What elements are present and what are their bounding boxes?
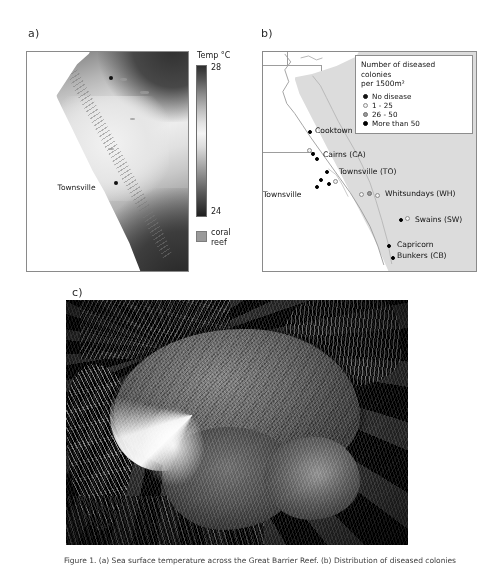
site-marker-wh-low bbox=[359, 192, 364, 197]
map-label-townsville: Townsville bbox=[58, 183, 96, 192]
legend-marker-no-disease-icon bbox=[363, 94, 368, 99]
legend-title-line2: per 1500m² bbox=[361, 79, 467, 89]
sector-label-wh: Whitsundays (WH) bbox=[385, 189, 455, 198]
legend-marker-26-50-icon bbox=[363, 112, 368, 117]
legend-row-26-50: 26 - 50 bbox=[361, 110, 467, 119]
coral-scene bbox=[66, 300, 408, 545]
site-marker-ca bbox=[311, 152, 315, 156]
legend-marker-1-25-icon bbox=[363, 103, 368, 108]
site-marker-ca bbox=[315, 157, 319, 161]
panel-c-label: c) bbox=[72, 286, 83, 299]
figure-caption: Figure 1. (a) Sea surface temperature ac… bbox=[60, 556, 460, 565]
site-marker-wh-low bbox=[375, 193, 380, 198]
site-marker-cb bbox=[387, 244, 391, 248]
panel-b-disease-map: Townsville Cooktown / Lizard Island (CL)… bbox=[262, 51, 477, 272]
panel-a-label: a) bbox=[28, 27, 39, 40]
sst-field: Townsville bbox=[27, 52, 188, 271]
legend-label-more-than-50: More than 50 bbox=[372, 119, 420, 128]
colorbar-title: Temp °C bbox=[197, 51, 230, 60]
coral-reef-swatch bbox=[196, 231, 207, 242]
coral-reef-swatch-label-line2: reef bbox=[211, 238, 231, 248]
panel-a-sst-map: Townsville bbox=[26, 51, 189, 272]
site-marker-to-low bbox=[333, 179, 338, 184]
figure-root: a) Townsville Temp °C 28 24 coral bbox=[0, 0, 497, 565]
legend-label-1-25: 1 - 25 bbox=[372, 101, 393, 110]
boundary-line bbox=[321, 65, 322, 71]
legend-label-26-50: 26 - 50 bbox=[372, 110, 397, 119]
site-marker-sw bbox=[399, 218, 403, 222]
panel-b-label: b) bbox=[261, 27, 273, 40]
boundary-line bbox=[263, 65, 321, 66]
site-marker-to bbox=[327, 182, 331, 186]
legend-row-more-than-50: More than 50 bbox=[361, 119, 467, 128]
legend-row-1-25: 1 - 25 bbox=[361, 101, 467, 110]
temperature-colorbar-group: Temp °C 28 24 coral reef bbox=[193, 51, 249, 266]
sector-label-sw: Swains (SW) bbox=[415, 215, 462, 224]
map-label-townsville: Townsville bbox=[263, 190, 301, 199]
site-marker-ca-low bbox=[307, 148, 312, 153]
boundary-line bbox=[287, 52, 288, 66]
coral-reef-swatch-label: coral reef bbox=[211, 228, 231, 247]
reef-patch bbox=[130, 118, 135, 120]
site-marker-to bbox=[319, 178, 323, 182]
colorbar-tick-max: 28 bbox=[211, 63, 221, 72]
site-marker-sw-low bbox=[405, 216, 410, 221]
legend-marker-more-than-50-icon bbox=[363, 121, 368, 126]
coral-reef-swatch-label-line1: coral bbox=[211, 228, 231, 238]
city-marker-townsville bbox=[315, 185, 319, 189]
cape-york-landmass bbox=[262, 51, 365, 83]
disease-legend: Number of diseased colonies per 1500m² N… bbox=[355, 55, 473, 134]
sector-label-cb-line1: Capricorn bbox=[397, 240, 434, 249]
site-marker-wh-mid bbox=[367, 191, 372, 196]
sector-label-cb-line2: Bunkers (CB) bbox=[397, 251, 447, 260]
site-marker-cl bbox=[308, 130, 312, 134]
sector-label-to: Townsville (TO) bbox=[339, 167, 396, 176]
site-marker-to bbox=[325, 170, 329, 174]
panel-c-coral-photograph bbox=[66, 300, 408, 545]
legend-row-no-disease: No disease bbox=[361, 92, 467, 101]
sector-label-ca: Cairns (CA) bbox=[323, 150, 366, 159]
legend-title: Number of diseased colonies per 1500m² bbox=[361, 60, 467, 89]
colorbar-tick-min: 24 bbox=[211, 207, 221, 216]
site-marker-cb bbox=[391, 256, 395, 260]
legend-label-no-disease: No disease bbox=[372, 92, 411, 101]
colorbar-gradient bbox=[196, 65, 207, 217]
legend-title-line1: Number of diseased colonies bbox=[361, 60, 467, 79]
photo-vignette bbox=[66, 300, 408, 545]
